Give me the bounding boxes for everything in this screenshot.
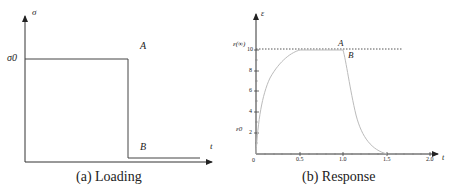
loading-curve [25, 59, 200, 158]
x-tick-1-5: 1.5 [383, 156, 391, 162]
x-tick-2-0: 2.0 [426, 156, 434, 162]
point-b-label: B [140, 141, 146, 152]
response-point-a-label: A [338, 38, 344, 48]
response-point-b-label: B [348, 50, 354, 60]
x-tick-1-0: 1.0 [339, 156, 347, 162]
response-x-axis-label: t [442, 153, 444, 162]
response-curve [256, 50, 387, 154]
loading-caption: (a) Loading [76, 169, 142, 185]
loading-x-axis-label: t [210, 141, 213, 151]
x-tick-0-5: 0.5 [296, 156, 304, 162]
diagrams-canvas [0, 0, 456, 191]
y-tick-4: 4 [249, 108, 252, 114]
y-tick-8: 8 [249, 67, 252, 73]
asymptote-label: ε(∞) [233, 40, 245, 48]
origin-label: 0 [252, 157, 255, 163]
loading-axes [25, 16, 212, 162]
point-a-label: A [140, 40, 146, 51]
loading-y-axis-label: σ [32, 7, 36, 17]
y-tick-6: 6 [249, 87, 252, 93]
response-caption: (b) Response [302, 169, 376, 185]
y-tick-2: 2 [249, 129, 252, 135]
response-y-axis-label: ε [261, 9, 264, 18]
epsilon0-label: ε0 [236, 125, 242, 133]
response-axes [254, 14, 438, 156]
y-tick-10: 10 [247, 46, 253, 52]
sigma0-label: σ0 [7, 52, 17, 63]
